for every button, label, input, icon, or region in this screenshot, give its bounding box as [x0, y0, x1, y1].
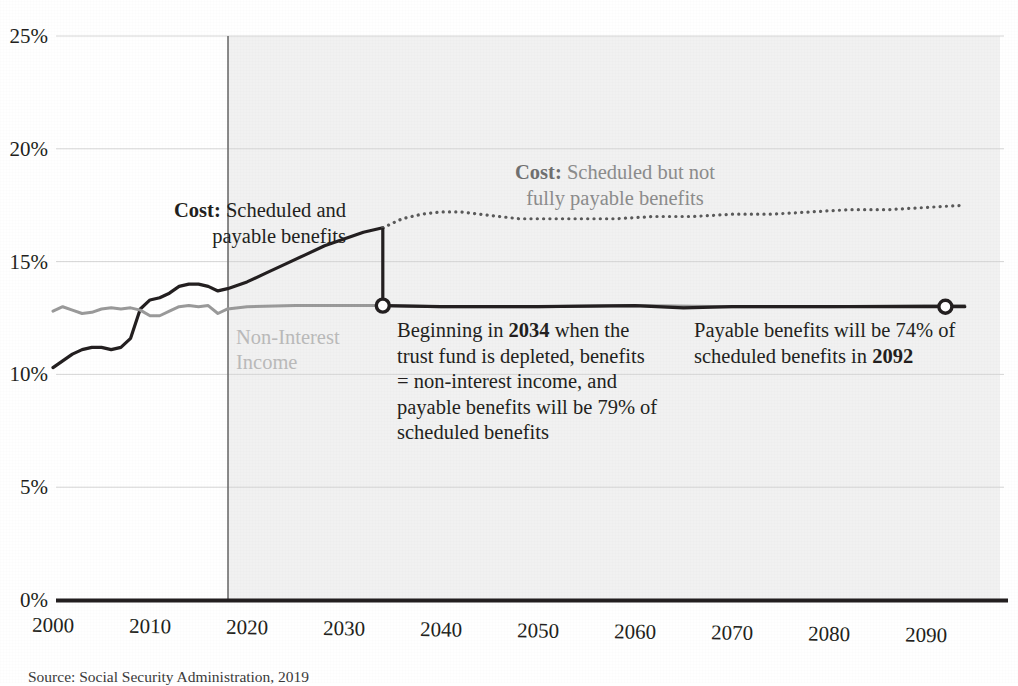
payable-2092-year: 2092	[872, 345, 913, 367]
x-tick-label: 2070	[711, 620, 753, 645]
x-axis-tick-labels: 2000201020202030204020502060207020802090	[32, 613, 947, 648]
non-interest-income-line1: Non-Interest	[236, 326, 340, 348]
y-tick-label: 10%	[10, 362, 49, 386]
non-interest-income-line2: Income	[236, 351, 297, 373]
payable-2092-pre: Payable benefits will be 74% of schedule…	[694, 319, 955, 367]
source-note: Source: Social Security Administration, …	[28, 668, 309, 686]
y-tick-label: 5%	[20, 475, 48, 499]
depletion-marker-2034	[376, 299, 389, 312]
annotation-cost-payable-bold: Cost:	[174, 199, 221, 221]
annotation-cost-not-payable: Cost: Scheduled but not fully payable be…	[470, 160, 760, 211]
y-tick-label: 20%	[10, 137, 49, 161]
annotation-cost-not-payable-line2: fully payable benefits	[526, 187, 704, 209]
x-tick-label: 2060	[614, 619, 656, 644]
y-tick-label: 25%	[10, 24, 49, 48]
x-tick-label: 2000	[32, 613, 74, 638]
y-axis-tick-labels: 0%5%10%15%20%25%	[10, 24, 49, 612]
annotation-depletion-note: Beginning in 2034 when the trust fund is…	[397, 318, 659, 446]
payable-marker-2092	[939, 300, 952, 313]
annotation-cost-payable: Cost: Scheduled and payable benefits	[116, 198, 346, 249]
series-label-non-interest-income: Non-Interest Income	[236, 325, 396, 375]
x-tick-label: 2020	[226, 615, 268, 640]
x-tick-label: 2040	[420, 617, 462, 642]
annotation-cost-payable-rest: Scheduled and	[221, 199, 346, 221]
annotation-cost-not-payable-bold: Cost:	[515, 161, 562, 183]
x-tick-label: 2010	[129, 614, 171, 639]
y-tick-label: 15%	[10, 250, 49, 274]
depletion-note-year: 2034	[509, 319, 550, 341]
annotation-cost-payable-line2: payable benefits	[212, 225, 346, 247]
y-tick-label: 0%	[20, 588, 48, 612]
x-tick-label: 2080	[808, 621, 850, 646]
annotation-payable-2092-note: Payable benefits will be 74% of schedule…	[694, 318, 994, 369]
depletion-note-pre: Beginning in	[397, 319, 509, 341]
x-tick-label: 2050	[517, 618, 559, 643]
x-tick-label: 2090	[905, 623, 947, 648]
x-tick-label: 2030	[323, 616, 365, 641]
annotation-cost-not-payable-rest: Scheduled but not	[562, 161, 715, 183]
series-line	[383, 306, 965, 308]
